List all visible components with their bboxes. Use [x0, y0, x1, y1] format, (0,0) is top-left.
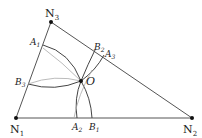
arc-b3-o-light — [28, 78, 81, 84]
edge-n3-n2 — [51, 22, 192, 118]
label-b1: B1 — [88, 122, 99, 133]
point-n1 — [14, 116, 18, 120]
label-a3: A3 — [104, 49, 116, 60]
triangle-diagram: N3 N1 N2 O A1 B3 B2 A3 A2 B1 — [0, 0, 202, 138]
arc-b3-o — [28, 81, 81, 87]
label-o: O — [86, 75, 95, 88]
label-a1: A1 — [29, 37, 40, 48]
point-n3 — [49, 20, 53, 24]
label-b2: B2 — [93, 42, 105, 53]
label-a2: A2 — [71, 122, 83, 133]
point-o — [79, 79, 83, 83]
label-b3: B3 — [14, 77, 26, 88]
point-n2 — [190, 116, 194, 120]
arc-a1-o-light — [43, 48, 81, 81]
label-n2: N2 — [183, 123, 197, 138]
label-n3: N3 — [45, 7, 59, 22]
label-n1: N1 — [10, 123, 24, 138]
